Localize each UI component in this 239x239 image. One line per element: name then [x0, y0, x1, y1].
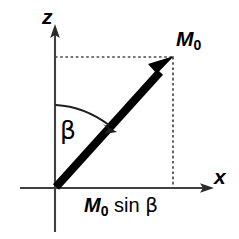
- x-projection-function: sin: [114, 194, 140, 216]
- z-axis-label: z: [42, 6, 53, 27]
- x-projection-label: M0 sin β: [84, 195, 158, 218]
- x-projection-magnitude: M: [84, 194, 101, 216]
- vector-diagram-figure: z x β M0 M0 sin β: [0, 0, 239, 239]
- vector-tip-label-magnitude: M: [176, 27, 194, 50]
- vector-tip-label: M0: [176, 28, 201, 52]
- vector-tip-label-subscript: 0: [194, 37, 202, 53]
- x-projection-variable: β: [145, 193, 158, 217]
- beta-angle-label: β: [60, 118, 76, 143]
- x-axis-label: x: [214, 166, 226, 187]
